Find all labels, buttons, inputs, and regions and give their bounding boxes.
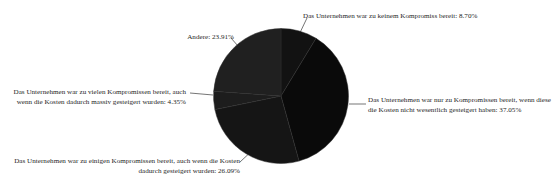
- pie-label-keinem-kompromiss: Das Unternehmen war zu keinem Kompromiss…: [303, 12, 551, 22]
- pie-chart: [213, 28, 349, 164]
- pie-label-einigen-kompromissen: Das Unternehmen war zu einigen Kompromis…: [12, 157, 240, 176]
- leader-line-vielen: [190, 93, 213, 95]
- pie-svg: [213, 28, 349, 164]
- pie-label-nur-kompromissen: Das Unternehmen war nur zu Kompromissen …: [368, 96, 551, 115]
- chart-page: Das Unternehmen war zu keinem Kompromiss…: [0, 0, 553, 189]
- pie-slices: [214, 29, 349, 164]
- pie-label-vielen-kompromissen: Das Unternehmen war zu vielen Kompromiss…: [6, 88, 186, 107]
- pie-label-andere: Andere: 23.91%: [126, 33, 234, 43]
